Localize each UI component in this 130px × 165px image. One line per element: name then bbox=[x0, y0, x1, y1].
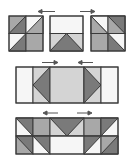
bottom-strip bbox=[16, 118, 118, 154]
piecing-diagram bbox=[0, 0, 130, 165]
center-strip bbox=[16, 67, 118, 103]
arrow-right-icon bbox=[77, 111, 92, 115]
arrow-left-icon bbox=[38, 10, 55, 14]
arrow-left-icon bbox=[43, 111, 58, 115]
arrow-left-icon bbox=[78, 61, 93, 65]
arrow-right-icon bbox=[80, 10, 95, 14]
right-unit bbox=[91, 16, 125, 51]
center-unit bbox=[50, 16, 83, 51]
left-unit bbox=[9, 16, 43, 51]
arrow-right-icon bbox=[42, 61, 58, 65]
